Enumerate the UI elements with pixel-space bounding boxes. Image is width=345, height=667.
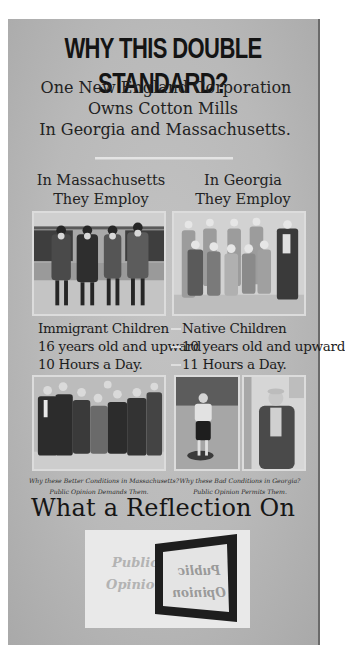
subhead: One New England Corporation Owns Cotton … <box>8 77 318 140</box>
poster: WHY THIS DOUBLE STANDARD? One New Englan… <box>8 19 320 645</box>
divider <box>95 157 233 160</box>
georgia-facts: Native Children 10 years old and upward … <box>182 319 345 373</box>
georgia-photo-boy-cap <box>242 375 306 471</box>
subhead-line: One New England Corporation <box>14 77 318 98</box>
mirrored-text-line: Opinion <box>171 582 227 604</box>
massachusetts-photo-group <box>32 375 166 471</box>
caption-line: Why these Better Conditions in Massachus… <box>29 475 169 486</box>
heading-line: They Employ <box>31 190 171 209</box>
reflection-title: What a Reflection On <box>8 494 318 522</box>
mirrored-text-line: Public <box>171 560 227 582</box>
fact-line: 10 years old and upward <box>182 337 345 355</box>
subhead-line: Owns Cotton Mills <box>8 98 318 119</box>
georgia-photo-group <box>172 211 306 316</box>
heading-line: They Employ <box>173 190 313 209</box>
heading-line: In Georgia <box>173 171 313 190</box>
massachusetts-heading: In Massachusetts They Employ <box>31 171 171 209</box>
fact-line: 11 Hours a Day. <box>182 355 345 373</box>
dash-separator <box>171 364 181 366</box>
georgia-photo-boy-field <box>174 375 240 471</box>
mirror-illustration: Public Opinion Public Opinion <box>85 530 250 628</box>
dash-separator <box>171 346 181 348</box>
subhead-line: In Georgia and Massachusetts. <box>12 119 318 140</box>
fact-line: Native Children <box>182 319 345 337</box>
mirrored-text: Public Opinion <box>171 560 227 604</box>
heading-line: In Massachusetts <box>31 171 171 190</box>
dash-separator <box>171 328 181 330</box>
caption-line: Why these Bad Conditions in Georgia? <box>170 475 310 486</box>
georgia-heading: In Georgia They Employ <box>173 171 313 209</box>
massachusetts-photo-boys <box>32 211 166 316</box>
